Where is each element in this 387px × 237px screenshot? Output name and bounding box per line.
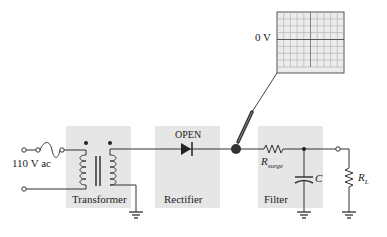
filter-label: Filter — [264, 193, 288, 205]
oscilloscope-screen — [277, 12, 344, 73]
surge-resistor-label: Rsurge — [261, 155, 283, 170]
transformer-label: Transformer — [72, 193, 127, 205]
open-fault-label: OPEN — [175, 129, 201, 140]
rectifier-label: Rectifier — [164, 193, 202, 205]
ground-icons — [129, 212, 356, 218]
load-resistor-label: RL — [358, 171, 369, 186]
node-dot — [302, 147, 306, 151]
fuse — [40, 143, 60, 158]
source-label: 110 V ac — [12, 157, 51, 169]
load-resistor — [345, 168, 353, 187]
capacitor-label: C — [315, 172, 322, 184]
scope-reading-label: 0 V — [255, 31, 271, 43]
